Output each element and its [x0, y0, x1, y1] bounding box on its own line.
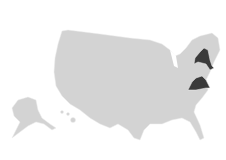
hawaii-2: [67, 113, 70, 116]
hawaii-3: [71, 118, 76, 123]
us-map: [0, 0, 226, 160]
alaska: [12, 97, 56, 138]
hawaii-1: [61, 111, 64, 114]
